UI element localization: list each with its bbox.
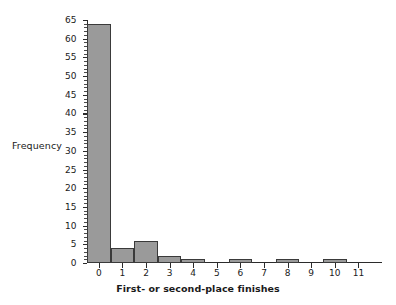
x-axis-tick-label: 0: [96, 269, 102, 278]
y-axis-tick-label: 40: [65, 109, 76, 118]
bar: [134, 241, 158, 263]
x-axis-tick: [146, 263, 147, 268]
x-axis-tick: [193, 263, 194, 268]
x-axis-tick-label: 7: [261, 269, 267, 278]
x-axis-tick: [335, 263, 336, 268]
y-axis-tick-label: 15: [65, 202, 76, 211]
x-axis-tick-label: 11: [353, 269, 364, 278]
y-axis-tick-label: 20: [65, 184, 76, 193]
y-axis-tick: 65: [83, 20, 88, 21]
y-axis-tick: 0: [83, 263, 88, 264]
x-axis-tick-label: 3: [167, 269, 173, 278]
y-axis-label: Frequency: [12, 140, 62, 151]
x-axis-tick: [240, 263, 241, 268]
histogram-figure: Frequency 05101520253035404550556065 012…: [0, 0, 396, 305]
bar: [276, 259, 300, 263]
x-axis-tick-label: 8: [285, 269, 291, 278]
y-axis-tick-label: 30: [65, 146, 76, 155]
x-axis-tick-label: 4: [190, 269, 196, 278]
bar: [181, 259, 205, 263]
x-axis-tick-label: 10: [329, 269, 340, 278]
x-axis-tick-label: 6: [238, 269, 244, 278]
x-axis-tick: [170, 263, 171, 268]
y-axis-tick-label: 35: [65, 128, 76, 137]
bar: [158, 256, 182, 263]
y-axis-tick-label: 5: [71, 240, 77, 249]
bar: [87, 24, 111, 263]
y-axis-tick-label: 10: [65, 221, 76, 230]
y-axis-tick-label: 65: [65, 16, 76, 25]
x-axis-tick: [217, 263, 218, 268]
x-axis-tick: [288, 263, 289, 268]
y-axis-tick-label: 50: [65, 72, 76, 81]
x-axis-tick-label: 1: [120, 269, 126, 278]
x-axis-label: First- or second-place finishes: [0, 283, 396, 294]
y-axis-tick-label: 55: [65, 53, 76, 62]
x-axis-tick-label: 9: [308, 269, 314, 278]
y-axis-tick-label: 60: [65, 34, 76, 43]
x-axis-tick-label: 5: [214, 269, 220, 278]
bar: [111, 248, 135, 263]
x-axis-tick: [311, 263, 312, 268]
y-axis-tick-label: 25: [65, 165, 76, 174]
x-axis-tick: [264, 263, 265, 268]
y-axis-tick-label: 45: [65, 90, 76, 99]
x-axis-tick: [358, 263, 359, 268]
bar: [229, 259, 253, 263]
plot-area: 05101520253035404550556065 0123456789101…: [87, 20, 382, 263]
x-axis-tick: [122, 263, 123, 268]
x-axis-tick: [99, 263, 100, 268]
y-axis-tick-label: 0: [71, 259, 77, 268]
x-axis-tick-label: 2: [143, 269, 149, 278]
bar: [323, 259, 347, 263]
